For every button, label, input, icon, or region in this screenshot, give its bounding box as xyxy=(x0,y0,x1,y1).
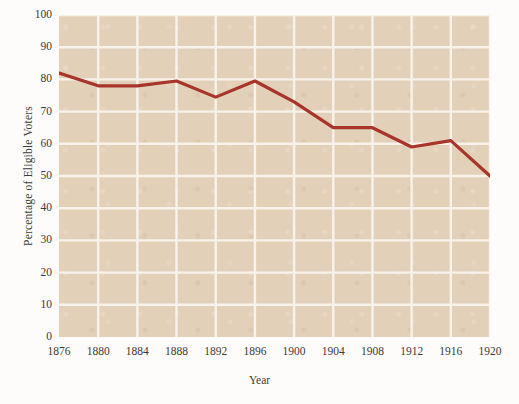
y-tick-label: 30 xyxy=(16,233,52,245)
y-tick-label: 60 xyxy=(16,137,52,149)
x-tick-label: 1908 xyxy=(350,345,394,357)
x-tick-label: 1916 xyxy=(429,345,473,357)
x-tick-label: 1876 xyxy=(37,345,81,357)
chart-figure: Percentage of Eligible Voters 0102030405… xyxy=(0,0,519,404)
y-tick-label: 80 xyxy=(16,72,52,84)
y-axis-ticks: 0102030405060708090100 xyxy=(0,0,519,404)
x-tick-label: 1892 xyxy=(194,345,238,357)
x-tick-label: 1904 xyxy=(311,345,355,357)
x-tick-label: 1900 xyxy=(272,345,316,357)
y-tick-label: 20 xyxy=(16,266,52,278)
x-tick-label: 1888 xyxy=(155,345,199,357)
y-tick-label: 10 xyxy=(16,298,52,310)
y-tick-label: 90 xyxy=(16,40,52,52)
x-tick-label: 1912 xyxy=(390,345,434,357)
x-tick-label: 1896 xyxy=(233,345,277,357)
y-tick-label: 0 xyxy=(16,330,52,342)
y-tick-label: 50 xyxy=(16,169,52,181)
y-tick-label: 70 xyxy=(16,105,52,117)
y-tick-label: 40 xyxy=(16,201,52,213)
x-tick-label: 1884 xyxy=(115,345,159,357)
x-tick-label: 1920 xyxy=(468,345,512,357)
y-tick-label: 100 xyxy=(16,8,52,20)
x-tick-label: 1880 xyxy=(76,345,120,357)
x-axis-label: Year xyxy=(0,374,519,386)
